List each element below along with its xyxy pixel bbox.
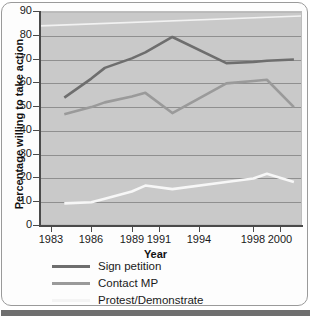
- x-axis-tick: [199, 227, 200, 232]
- legend-label-protest-demonstrate: Protest/Demonstrate: [98, 292, 203, 309]
- y-axis-labels: 0102030405060708090: [4, 0, 32, 240]
- y-axis-tick-label: 70: [8, 53, 32, 64]
- y-axis-tick: [33, 225, 40, 226]
- x-axis-tick-label: 1994: [179, 233, 219, 245]
- x-axis-tick-label: 1991: [139, 233, 179, 245]
- x-axis-tick: [280, 227, 281, 232]
- x-axis-tick-label: 1986: [71, 233, 111, 245]
- y-axis-tick-label: 30: [8, 148, 32, 159]
- x-axis-tick: [253, 227, 254, 232]
- y-axis-tick: [33, 130, 40, 131]
- y-axis-tick-label: 80: [8, 29, 32, 40]
- x-axis-tick: [132, 227, 133, 232]
- legend-label-contact-mp: Contact MP: [98, 275, 158, 292]
- x-axis-tick-label: 2000: [260, 233, 300, 245]
- y-axis-tick: [33, 106, 40, 107]
- x-axis-line: [39, 225, 303, 227]
- series-lines: [40, 12, 302, 225]
- series-line-protest-demonstrate: [64, 174, 294, 204]
- x-axis-tick-label: 1983: [31, 233, 71, 245]
- x-axis-tick: [159, 227, 160, 232]
- y-axis-tick-label: 10: [8, 195, 32, 206]
- legend-swatch-sign-petition: [52, 265, 90, 268]
- y-axis-tick-label: 20: [8, 171, 32, 182]
- legend-item: Contact MP: [52, 275, 282, 292]
- y-axis-tick: [33, 154, 40, 155]
- legend-label-sign-petition: Sign petition: [98, 258, 161, 275]
- legend-item: Sign petition: [52, 258, 282, 275]
- page-edge-bar: [1, 310, 310, 316]
- legend-item: Protest/Demonstrate: [52, 292, 282, 309]
- y-axis-tick-label: 40: [8, 124, 32, 135]
- plot-area: [40, 11, 302, 225]
- y-axis-line: [39, 11, 41, 226]
- y-axis-tick-label: 50: [8, 100, 32, 111]
- series-line-contact-mp: [64, 80, 294, 114]
- y-axis-tick-label: 60: [8, 76, 32, 87]
- chart-figure: Percentage willing to take action 010203…: [0, 0, 311, 318]
- y-axis-tick: [33, 59, 40, 60]
- x-axis-tick: [51, 227, 52, 232]
- y-axis-tick: [33, 82, 40, 83]
- legend: Sign petition Contact MP Protest/Demonst…: [52, 258, 282, 309]
- y-axis-tick-label: 0: [8, 219, 32, 230]
- y-axis-tick-label: 90: [8, 5, 32, 16]
- y-axis-tick: [33, 35, 40, 36]
- y-axis-tick: [33, 177, 40, 178]
- y-axis-tick: [33, 11, 40, 12]
- legend-swatch-protest-demonstrate: [52, 299, 90, 302]
- legend-swatch-contact-mp: [52, 282, 90, 285]
- x-axis-tick: [91, 227, 92, 232]
- series-line-sign-petition: [64, 37, 294, 98]
- y-axis-tick: [33, 201, 40, 202]
